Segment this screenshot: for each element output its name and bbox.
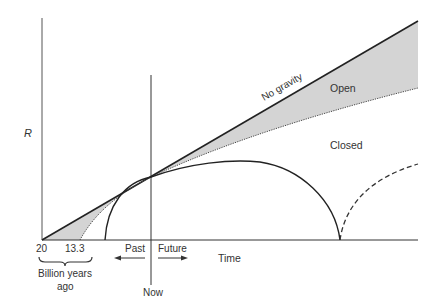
future-label: Future <box>158 243 187 254</box>
next-cycle-dashed-curve <box>340 164 418 240</box>
brace-label-line1: Billion years <box>38 268 92 279</box>
open-label: Open <box>330 82 356 94</box>
closed-curve <box>105 161 340 240</box>
no-gravity-line <box>42 21 418 240</box>
brace-label-line2: ago <box>57 281 74 292</box>
open-curve <box>80 88 418 240</box>
expansion-diagram: R No gravity Open Closed 20 13.3 Billion… <box>0 0 440 302</box>
tick-13-3: 13.3 <box>65 243 85 254</box>
tick-20: 20 <box>36 243 48 254</box>
past-arrowhead-icon <box>114 256 121 261</box>
future-arrowhead-icon <box>181 256 188 261</box>
time-label: Time <box>218 252 241 264</box>
now-label: Now <box>143 287 164 298</box>
closed-label: Closed <box>330 139 363 151</box>
y-axis-label: R <box>24 127 32 139</box>
past-label: Past <box>125 243 145 254</box>
brace <box>39 257 92 266</box>
